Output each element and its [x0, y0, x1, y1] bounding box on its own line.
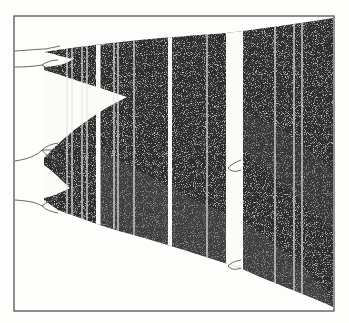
chaotic-region [40, 15, 335, 315]
bifurcation-diagram [0, 0, 349, 323]
window-period5 [96, 20, 101, 240]
window-period6 [168, 20, 172, 260]
window-period3 [226, 20, 243, 280]
